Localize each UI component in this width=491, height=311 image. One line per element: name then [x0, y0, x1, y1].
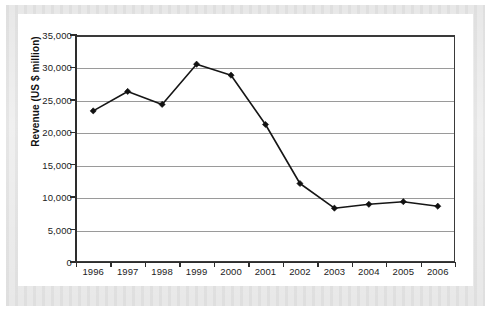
- y-axis-tick-label: 10,000: [12, 192, 72, 203]
- y-axis-tick-mark: [70, 132, 75, 133]
- line-chart: 05,00010,00015,00020,00025,00030,00035,0…: [0, 0, 491, 311]
- y-axis-tick-label: 0: [12, 257, 72, 268]
- x-axis-tick-mark: [455, 262, 456, 267]
- y-axis-tick-mark: [70, 261, 75, 262]
- y-axis-tick-label: 25,000: [12, 94, 72, 105]
- revenue-series: [76, 35, 455, 262]
- y-axis-tick-label: 20,000: [12, 127, 72, 138]
- x-axis-tick-label: 2006: [415, 266, 461, 277]
- y-axis-tick-mark: [70, 67, 75, 68]
- x-axis-tick-mark: [179, 262, 180, 267]
- y-axis-tick-label: 30,000: [12, 62, 72, 73]
- y-axis-tick-label: 35,000: [12, 30, 72, 41]
- y-axis-tick-mark: [70, 164, 75, 165]
- scanned-chart-page: 05,00010,00015,00020,00025,00030,00035,0…: [0, 0, 491, 311]
- x-axis-tick-mark: [317, 262, 318, 267]
- revenue-line: [93, 64, 438, 208]
- data-point-marker: [400, 199, 406, 205]
- x-axis-tick-mark: [248, 262, 249, 267]
- y-axis-tick-label: 5,000: [12, 224, 72, 235]
- data-point-marker: [435, 203, 441, 209]
- y-axis-tick-label: 15,000: [12, 159, 72, 170]
- x-axis-tick-mark: [283, 262, 284, 267]
- x-axis-tick-mark: [386, 262, 387, 267]
- x-axis-tick-mark: [76, 262, 77, 267]
- x-axis-tick-mark: [421, 262, 422, 267]
- data-point-marker: [125, 88, 131, 94]
- x-axis-tick-mark: [145, 262, 146, 267]
- y-axis-title: Revenue (US $ million): [30, 12, 41, 172]
- y-axis-tick-mark: [70, 34, 75, 35]
- y-axis-tick-mark: [70, 196, 75, 197]
- data-point-marker: [366, 201, 372, 207]
- x-axis-tick-mark: [110, 262, 111, 267]
- x-axis-tick-mark: [352, 262, 353, 267]
- x-axis-tick-mark: [214, 262, 215, 267]
- data-point-marker: [90, 108, 96, 114]
- y-axis-tick-mark: [70, 229, 75, 230]
- y-axis-tick-mark: [70, 99, 75, 100]
- revenue-markers: [90, 61, 441, 211]
